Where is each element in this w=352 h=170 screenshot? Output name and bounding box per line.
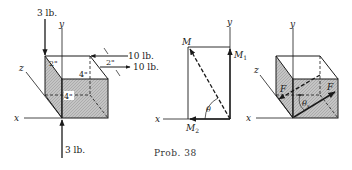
m1-label: M1 — [233, 50, 247, 61]
dim-top-depth-label: 2" — [49, 59, 58, 68]
theta-label: θ — [206, 105, 211, 114]
x-axis-label: x — [14, 113, 19, 123]
figure-2-moment-vectors: y x M1 M2 M θ — [155, 17, 247, 134]
m2-label: M2 — [185, 123, 199, 134]
dim-spacing-label: 2" — [106, 58, 115, 67]
dim-top-width-label: 4" — [79, 70, 88, 79]
problem-38-figure: y x z 3 lb. 3 lb. 10 lb. 10 lb. 2" 2" 4"… — [0, 0, 352, 170]
y-axis-label: y — [226, 17, 233, 27]
dim-tick-top — [104, 48, 108, 54]
z-axis-label: z — [253, 65, 259, 75]
z-axis-label: z — [18, 63, 24, 73]
force-right-label: F — [326, 82, 334, 92]
dim-front-width-label: 4" — [64, 92, 73, 101]
x-axis-label: x — [246, 113, 251, 123]
right-force-top-label: 10 lb. — [128, 51, 154, 61]
y-axis-label: y — [58, 19, 65, 29]
force-left-label: F — [279, 84, 287, 94]
x-axis-label: x — [155, 114, 160, 124]
m-label: M — [181, 37, 192, 47]
top-force-label: 3 lb. — [37, 8, 57, 18]
bottom-force-label: 3 lb. — [65, 145, 85, 155]
dim-tick-bottom — [116, 70, 120, 76]
right-force-bottom-label: 10 lb. — [133, 62, 159, 72]
figure-1-cube-with-forces: y x z 3 lb. 3 lb. 10 lb. 10 lb. 2" 2" 4"… — [14, 8, 159, 158]
y-axis-label: y — [289, 19, 296, 29]
figure-3-cube-couple: y x z F F θx — [246, 19, 338, 123]
figure-caption: Prob. 38 — [154, 148, 197, 158]
